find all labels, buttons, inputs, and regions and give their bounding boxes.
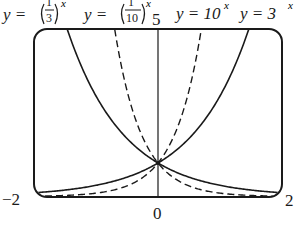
x-min-tick: −2 (2, 190, 20, 209)
label-3x: y = 3 x (238, 0, 293, 23)
svg-text:10: 10 (126, 11, 138, 25)
svg-text:y = 10: y = 10 (174, 4, 221, 23)
label-10x: y = 10 x (174, 0, 229, 23)
y-max-tick: 5 (152, 10, 161, 29)
svg-text:3: 3 (46, 11, 52, 25)
x-max-tick: 2 (285, 191, 294, 210)
svg-text:1: 1 (46, 0, 52, 9)
svg-text:x: x (287, 0, 293, 11)
svg-text:1: 1 (128, 0, 134, 9)
label-one-tenth: y = 1 10 x (82, 0, 151, 25)
svg-text:x: x (145, 0, 151, 9)
intersection-point (156, 161, 160, 165)
svg-text:x: x (223, 0, 229, 11)
svg-text:y =: y = (1, 5, 26, 24)
svg-text:y =: y = (82, 5, 107, 24)
x-zero-tick: 0 (153, 204, 162, 223)
svg-text:x: x (60, 0, 66, 9)
label-one-third: y = 1 3 x (1, 0, 66, 25)
exponential-chart: y = 1 3 x y = 1 10 x 5 y = 10 x y = 3 x … (0, 0, 297, 225)
svg-text:y = 3: y = 3 (238, 4, 276, 23)
